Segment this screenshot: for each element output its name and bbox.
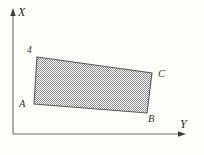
figure-canvas: X Y 4 A C B <box>0 0 204 155</box>
x-axis-arrowhead <box>10 8 15 16</box>
shape-group <box>34 57 152 113</box>
y-axis-label: Y <box>180 118 187 130</box>
vertex-label-a: A <box>19 99 25 110</box>
vertex-label-c: C <box>158 69 165 80</box>
shaded-rectangle <box>34 57 152 113</box>
y-axis-arrowhead <box>178 131 186 136</box>
vertex-label-b: B <box>148 114 154 125</box>
vertex-label-top-left: 4 <box>27 46 32 56</box>
figure-drawing <box>0 0 204 155</box>
x-axis-label: X <box>18 6 25 18</box>
